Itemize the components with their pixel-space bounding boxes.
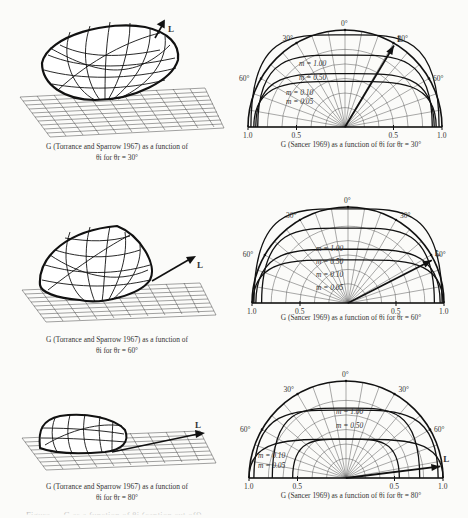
angle-tick-label: 30° xyxy=(398,34,409,43)
polar-grid xyxy=(252,207,444,303)
m-curve-label: m = 0.50 xyxy=(336,421,364,430)
angle-tick-label: 0° xyxy=(342,370,349,379)
angle-tick-label: 60° xyxy=(435,250,446,259)
wireframe-3d-plot: L xyxy=(0,180,234,350)
light-vector-label: L xyxy=(168,24,174,34)
plot-subtitle: θi for θr = 30° xyxy=(0,153,234,163)
angle-tick-label: 60° xyxy=(433,74,444,83)
m-curve-label: m = 1.00 xyxy=(316,244,344,253)
angle-tick-label: 60° xyxy=(239,74,250,83)
angle-tick-label: 60° xyxy=(434,425,445,434)
wireframe-lobe xyxy=(40,226,152,302)
angle-tick-label: 0° xyxy=(341,19,348,28)
radial-tick-label: 0.5 xyxy=(389,131,399,140)
m-curve-label: m = 1.00 xyxy=(299,59,327,68)
angle-tick-label: 30° xyxy=(283,34,294,43)
angle-tick-label: 0° xyxy=(344,196,351,205)
radial-tick-label: 0.5 xyxy=(292,131,302,140)
m-curve-label: m = 0.05 xyxy=(258,461,286,470)
radial-tick-label: 1.0 xyxy=(437,131,447,140)
light-vector-label: L xyxy=(195,420,201,430)
row-2-left-3d-plot: L G (Torrance and Sparrow 1967) as a fun… xyxy=(0,180,234,350)
angle-tick-label: 30° xyxy=(286,211,297,220)
light-vector-arrow xyxy=(152,256,196,281)
m-curve-label: m = 0.10 xyxy=(258,451,286,460)
m-curve-label: m = 0.05 xyxy=(316,283,344,292)
plot-caption: G (Sancer 1969) as a function of θi for … xyxy=(234,491,468,501)
angle-tick-label: 60° xyxy=(240,425,251,434)
plot-title: G (Torrance and Sparrow 1967) as a funct… xyxy=(0,482,234,492)
light-vector-label: L xyxy=(197,260,203,270)
radial-tick-label: 1.0 xyxy=(244,482,254,491)
plot-subtitle: θi for θr = 80° xyxy=(0,493,234,503)
wireframe-lobe xyxy=(40,414,127,453)
m-curve-label: m = 0.05 xyxy=(286,97,314,106)
m-curve-label: m = 0.50 xyxy=(299,73,327,82)
m-curve-label: m = 0.10 xyxy=(316,270,344,279)
angle-tick-label: 30° xyxy=(284,385,295,394)
polar-grid xyxy=(248,30,442,127)
plot-title: G (Torrance and Sparrow 1967) as a funct… xyxy=(0,142,234,152)
m-curve-label: m = 0.10 xyxy=(286,88,314,97)
polar-chart: L0°30°30°60°60°1.00.50.51.0m = 1.00m = 0… xyxy=(234,180,468,350)
radial-tick-label: 0.5 xyxy=(390,482,400,491)
plot-caption: G (Sancer 1969) as a function of θi for … xyxy=(234,313,468,323)
radial-tick-label: 1.0 xyxy=(438,482,448,491)
row-1-right-polar-plot: L0°30°30°60°60°1.00.50.51.0m = 1.00m = 0… xyxy=(234,0,468,170)
angle-tick-label: 30° xyxy=(399,385,410,394)
row-2-right-polar-plot: L0°30°30°60°60°1.00.50.51.0m = 1.00m = 0… xyxy=(234,180,468,350)
plot-caption: G (Sancer 1969) as a function of θi for … xyxy=(234,140,468,150)
angle-tick-label: 60° xyxy=(243,250,254,259)
angle-tick-label: 30° xyxy=(400,211,411,220)
light-vector-label: L xyxy=(443,454,449,464)
radial-tick-label: 0.5 xyxy=(293,482,303,491)
row-3-right-polar-plot: L0°30°30°60°60°1.00.50.51.0m = 1.00m = 0… xyxy=(234,350,468,518)
row-3-left-3d-plot: L G (Torrance and Sparrow 1967) as a fun… xyxy=(0,350,234,518)
radial-tick-label: 1.0 xyxy=(243,131,253,140)
row-1-left-3d-plot: L G (Torrance and Sparrow 1967) as a fun… xyxy=(0,0,234,170)
m-curve-label: m = 1.00 xyxy=(336,407,364,416)
m-curve-label: m = 0.50 xyxy=(316,257,344,266)
plot-title: G (Torrance and Sparrow 1967) as a funct… xyxy=(0,335,234,345)
light-vector-arrow xyxy=(346,466,440,478)
